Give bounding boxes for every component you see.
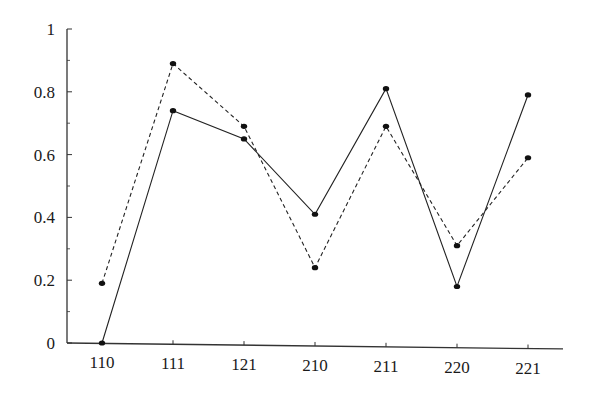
x-tick-label: 211 — [374, 357, 399, 376]
x-tick-label: 210 — [302, 356, 328, 375]
y-tick-label: 0.6 — [34, 146, 55, 165]
series-dashed — [99, 61, 531, 286]
dashed-marker — [312, 265, 318, 270]
solid-marker — [454, 284, 460, 289]
x-tick-label: 121 — [231, 355, 257, 374]
dashed-line — [102, 64, 528, 284]
dashed-marker — [454, 243, 460, 248]
series-group — [99, 61, 531, 346]
x-tick-label: 111 — [161, 354, 185, 373]
solid-marker — [312, 212, 318, 217]
x-axis-ticks: 110111121210211220221 — [90, 340, 541, 377]
series-solid — [99, 86, 531, 346]
x-tick-label: 110 — [90, 353, 115, 372]
line-chart: 00.20.40.60.81 110111121210211220221 — [0, 0, 591, 397]
dashed-marker — [241, 124, 247, 129]
y-tick-label: 0.4 — [34, 208, 56, 227]
y-tick-label: 1 — [47, 20, 56, 39]
solid-marker — [383, 86, 389, 91]
y-tick-label: 0 — [47, 334, 56, 353]
x-tick-label: 220 — [444, 358, 470, 377]
dashed-marker — [525, 155, 531, 160]
dashed-marker — [383, 124, 389, 129]
y-tick-label: 0.8 — [34, 83, 55, 102]
solid-marker — [170, 108, 176, 113]
x-tick-label: 221 — [515, 359, 541, 378]
y-axis-ticks: 00.20.40.60.81 — [34, 20, 72, 353]
solid-marker — [241, 136, 247, 141]
y-tick-label: 0.2 — [34, 271, 55, 290]
dashed-marker — [99, 281, 105, 286]
solid-marker — [99, 340, 105, 345]
dashed-marker — [170, 61, 176, 66]
solid-marker — [525, 92, 531, 97]
axes — [67, 29, 563, 349]
